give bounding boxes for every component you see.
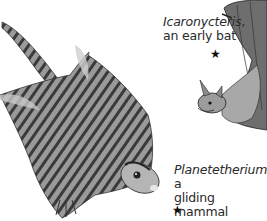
star-marker-glider: ★ bbox=[172, 204, 183, 216]
caption-planetetherium-desc: gliding mammal bbox=[174, 191, 267, 219]
caption-icaronycteris: Icaronycteris, an early bat bbox=[163, 15, 245, 43]
caption-planetetherium-name: Planetetherium bbox=[174, 162, 267, 177]
caption-icaronycteris-desc: an early bat bbox=[163, 29, 245, 43]
caption-planetetherium: Planetetherium, a gliding mammal bbox=[174, 163, 267, 219]
star-marker-bat: ★ bbox=[210, 48, 221, 60]
gliding-mammal-illustration bbox=[0, 0, 170, 221]
caption-icaronycteris-name: Icaronycteris bbox=[163, 14, 241, 29]
illustration-stage: Icaronycteris, an early bat ★ Planetethe… bbox=[0, 0, 267, 221]
